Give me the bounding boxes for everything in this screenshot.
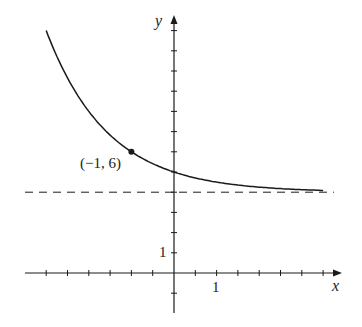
exponential-graph: (−1, 6) x y 1 1 xyxy=(0,0,362,327)
y-tick-label-1: 1 xyxy=(159,244,167,260)
axes xyxy=(25,22,336,313)
x-tick-label-1: 1 xyxy=(212,279,220,295)
highlighted-point xyxy=(128,149,134,155)
point-label: (−1, 6) xyxy=(80,155,121,172)
y-axis-arrow-icon xyxy=(171,15,178,24)
y-axis-label: y xyxy=(153,12,163,30)
x-axis-arrow-icon xyxy=(333,270,342,277)
x-axis-label: x xyxy=(331,277,339,294)
